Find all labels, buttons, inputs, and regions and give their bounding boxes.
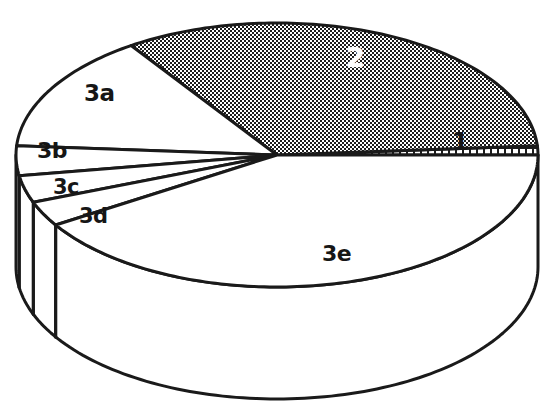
slice-label-3e: 3e: [322, 243, 351, 265]
slice-label-3a: 3a: [84, 82, 115, 105]
slice-label-3b: 3b: [37, 140, 67, 162]
slice-label-1: 1: [452, 130, 468, 154]
pie-chart-figure: 2 1 3a 3b 3c 3d 3e: [0, 0, 552, 418]
slice-label-3d: 3d: [79, 206, 108, 227]
slice-label-2: 2: [346, 44, 364, 71]
slice-label-3c: 3c: [53, 177, 79, 198]
